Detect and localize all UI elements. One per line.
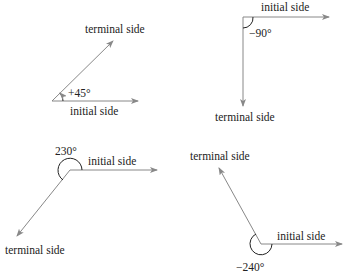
angle-arc [58, 158, 82, 180]
terminal-side-label: terminal side [5, 244, 65, 256]
diagram-positive-230: 230° initial side terminal side [5, 145, 157, 256]
diagram-negative-90: initial side −90° terminal side [215, 1, 329, 123]
diagram-negative-240: terminal side initial side −240° [190, 150, 342, 273]
terminal-side-ray [219, 168, 261, 244]
initial-side-label: initial side [70, 105, 118, 117]
angle-label: −90° [249, 27, 272, 39]
terminal-side-label: terminal side [85, 23, 145, 35]
initial-side-label: initial side [261, 1, 309, 13]
diagram-positive-45: terminal side +45° initial side [52, 23, 145, 117]
angle-diagrams: terminal side +45° initial side initial … [0, 0, 350, 276]
angle-arc [60, 93, 63, 101]
initial-side-label: initial side [88, 155, 136, 167]
angle-label: 230° [55, 145, 77, 157]
angle-label: +45° [68, 87, 91, 99]
angle-label: −240° [236, 261, 265, 273]
initial-side-label: initial side [277, 230, 325, 242]
terminal-side-label: terminal side [190, 150, 250, 162]
terminal-side-label: terminal side [215, 111, 275, 123]
